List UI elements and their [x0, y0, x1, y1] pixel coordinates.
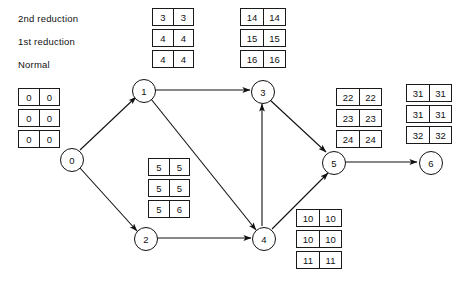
node-5[interactable]: 5: [322, 151, 346, 175]
network-edges: [0, 0, 469, 288]
network-diagram-canvas: 2nd reduction 1st reduction Normal 0 1 2…: [0, 0, 469, 288]
node-3[interactable]: 3: [251, 80, 275, 104]
edge-3-5: [270, 100, 326, 152]
node-2[interactable]: 2: [134, 227, 158, 251]
node-6[interactable]: 6: [419, 151, 443, 175]
edge-0-2: [80, 168, 137, 231]
edge-group: [80, 90, 417, 238]
node-0[interactable]: 0: [60, 148, 84, 172]
edge-0-1: [80, 97, 136, 150]
edge-4-5: [272, 173, 328, 229]
edge-1-4: [151, 99, 256, 230]
node-4[interactable]: 4: [252, 227, 276, 251]
node-1[interactable]: 1: [132, 79, 156, 103]
